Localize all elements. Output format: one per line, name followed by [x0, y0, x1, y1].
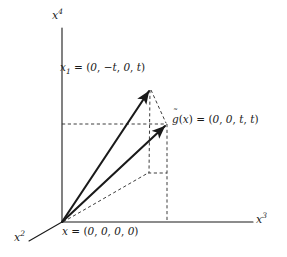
point-label-origin-component-3: 0 — [114, 225, 121, 237]
axis-label-x4-superscript: 4 — [58, 7, 63, 16]
figure-canvas: x4 x3 x2 x1 = (0, −t, 0, t) ˜g(x) = (0, … — [0, 0, 287, 257]
point-label-origin-close: ) — [134, 225, 138, 237]
point-label-gtilde: ˜g(x) = (0, 0, t, t) — [172, 114, 259, 125]
vector-to-x1-line — [62, 91, 149, 222]
vector-to-gtilde-line — [62, 126, 165, 222]
point-label-gtilde-accent: ˜ — [172, 108, 179, 118]
point-label-x1-component-1: 0 — [90, 61, 97, 73]
axes-group — [29, 28, 253, 241]
axis-label-x2: x2 — [14, 230, 25, 243]
point-label-x1-close: ) — [141, 61, 145, 73]
point-label-x1-equals-glyph: = — [74, 61, 83, 73]
x1-to-gtilde-diagonal-line — [151, 90, 166, 123]
diagram-svg — [0, 0, 287, 257]
point-label-x1-component-2: −t — [104, 61, 117, 73]
point-label-origin: x = (0, 0, 0, 0) — [62, 226, 138, 237]
point-label-gtilde-component-2: 0 — [226, 113, 233, 125]
axis-label-x3-superscript: 3 — [262, 211, 267, 220]
dashed-construction-group — [62, 90, 167, 222]
point-label-origin-equals: = — [71, 225, 80, 237]
point-label-x1: x1 = (0, −t, 0, t) — [60, 62, 145, 76]
axis-label-x3: x3 — [256, 212, 267, 225]
point-label-gtilde-symbol-wrap: ˜g — [172, 114, 179, 125]
x1-drop-vertical-line — [149, 90, 150, 173]
axis-label-x4: x4 — [52, 8, 63, 21]
axis-x2-line — [29, 222, 62, 241]
axis-label-x2-superscript: 2 — [20, 229, 25, 238]
point-label-gtilde-equals: = — [196, 113, 205, 125]
point-label-gtilde-close: ) — [254, 113, 258, 125]
point-label-origin-component-2: 0 — [101, 225, 108, 237]
